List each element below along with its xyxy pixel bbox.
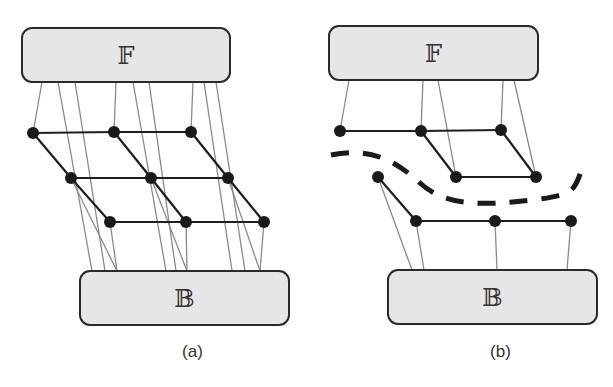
graph-node [180, 216, 192, 228]
fiber-line [33, 82, 42, 133]
graph-edge [228, 178, 264, 222]
graph-node [372, 171, 384, 183]
panel-caption: (b) [490, 342, 511, 361]
fiber-line [567, 221, 571, 270]
graph-edge [191, 132, 228, 178]
graph-node [565, 215, 577, 227]
panel-caption: (a) [182, 342, 203, 361]
graph-node [27, 127, 39, 139]
bottom-box-label: 𝔹 [174, 285, 194, 313]
graph-node [489, 215, 501, 227]
graph-edge [33, 132, 114, 133]
fiber-line [501, 80, 503, 130]
panel-a: 𝔽𝔹(a) [22, 28, 289, 361]
graph-node [410, 215, 422, 227]
fiber-line [191, 82, 193, 132]
graph-edge [421, 130, 501, 131]
graph-edge [421, 131, 456, 177]
fiber-line [340, 80, 349, 131]
fiber-line [114, 82, 116, 132]
graph-node [185, 126, 197, 138]
fiber-line [75, 82, 105, 271]
graph-node [415, 125, 427, 137]
graph-node [222, 172, 234, 184]
graph-node [145, 172, 157, 184]
graph-node [495, 124, 507, 136]
graph-node [65, 172, 77, 184]
fiber-line [186, 222, 187, 271]
fiber-line [260, 222, 264, 271]
fiber-line [378, 177, 412, 270]
graph-node [258, 216, 270, 228]
graph-edge [33, 133, 71, 178]
panel-b: 𝔽𝔹(b) [329, 26, 597, 361]
bottom-box-label: 𝔹 [482, 284, 502, 312]
graph-node [334, 125, 346, 137]
top-box-label: 𝔽 [425, 40, 442, 68]
graph-node [108, 126, 120, 138]
graph-edge [378, 177, 416, 221]
fiber-line [421, 80, 423, 131]
fiber-line [228, 178, 260, 271]
graph-node [450, 171, 462, 183]
fiber-bundle-diagram: 𝔽𝔹(a) 𝔽𝔹(b) [0, 0, 613, 387]
graph-node [104, 216, 116, 228]
top-box-label: 𝔽 [117, 42, 134, 70]
fiber-line [416, 221, 424, 270]
fiber-line [438, 80, 456, 177]
graph-node [530, 171, 542, 183]
fiber-line [495, 221, 497, 270]
graph-edge [71, 178, 110, 222]
